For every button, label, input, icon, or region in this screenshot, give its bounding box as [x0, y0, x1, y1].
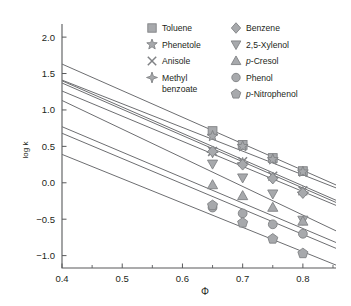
- legend-label: 2,5-Xylenol: [246, 40, 289, 50]
- marker-circle: [238, 209, 247, 218]
- legend-item-phenol: Phenol: [232, 73, 273, 83]
- x-tick-label: 0.6: [176, 273, 189, 284]
- legend-label: Methyl: [162, 73, 187, 83]
- y-tick-label: −1.0: [36, 250, 55, 261]
- legend-label: Phenetole: [162, 40, 201, 50]
- y-tick-label: 2.0: [42, 32, 55, 43]
- y-tick-label: 0.5: [42, 141, 55, 152]
- legend-label: Phenol: [246, 73, 273, 83]
- y-tick-label: 1.5: [42, 68, 55, 79]
- marker-circle: [268, 220, 277, 229]
- marker-circle: [232, 73, 240, 81]
- legend-label: p-Cresol: [245, 56, 279, 66]
- x-tick-label: 0.5: [116, 273, 129, 284]
- legend-label-line2: benzoate: [162, 84, 198, 94]
- marker-circle: [298, 229, 307, 238]
- marker-square: [148, 24, 156, 32]
- log-k-vs-phi-chart: −1.0−0.50.00.51.01.52.00.40.50.60.70.8 T…: [0, 0, 351, 306]
- x-axis-title: Φ: [201, 286, 209, 297]
- x-tick-label: 0.7: [236, 273, 249, 284]
- legend-label: Benzene: [246, 23, 280, 33]
- y-tick-label: 0.0: [42, 177, 55, 188]
- chart-figure: −1.0−0.50.00.51.01.52.00.40.50.60.70.8 T…: [0, 0, 351, 306]
- legend-item-toluene: Toluene: [148, 23, 193, 33]
- legend-label: Toluene: [162, 23, 192, 33]
- y-tick-label: 1.0: [42, 104, 55, 115]
- x-tick-label: 0.8: [296, 273, 309, 284]
- x-tick-label: 0.4: [55, 273, 68, 284]
- y-tick-label: −0.5: [36, 214, 55, 225]
- y-axis-title: log k: [21, 141, 30, 159]
- legend-label: Anisole: [162, 56, 190, 66]
- legend-label: p-Nitrophenol: [245, 89, 298, 99]
